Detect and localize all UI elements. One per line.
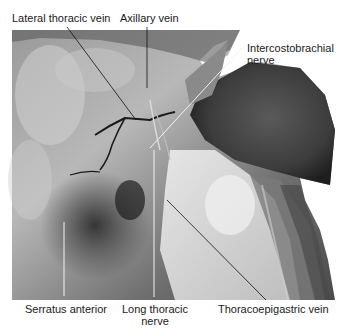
label-long-thoracic-nerve: Long thoracic nerve [122,303,188,327]
label-line-2: nerve [122,315,188,327]
label-line-1: Intercostobrachial [247,42,334,54]
label-serratus-anterior: Serratus anterior [25,303,107,315]
label-line-1: Long thoracic [122,303,188,315]
label-line-2: nerve [247,54,334,66]
anatomy-figure: Lateral thoracic vein Axillary vein Inte… [0,0,343,333]
label-thoracoepigastric-vein: Thoracoepigastric vein [218,303,329,315]
label-intercostobrachial-nerve: Intercostobrachial nerve [247,42,334,66]
label-lateral-thoracic-vein: Lateral thoracic vein [12,12,110,24]
label-axillary-vein: Axillary vein [120,12,179,24]
